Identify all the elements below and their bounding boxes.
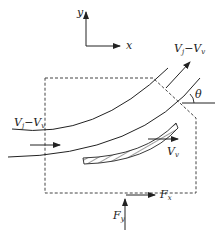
x-axis-label: x: [126, 39, 133, 52]
force-x-label: Fx: [159, 188, 172, 202]
jet-vane-diagram: y x Vj−Vv Vj−Vv θ Vv Fx Fy: [0, 0, 220, 239]
y-axis-label: y: [76, 6, 84, 19]
coordinate-axes: y x: [76, 6, 133, 52]
outlet-velocity-label: Vj−Vv: [174, 42, 205, 56]
outlet-flow-arrow: [166, 62, 190, 88]
angle-theta-label: θ: [195, 88, 202, 101]
inlet-velocity-label: Vj−Vv: [14, 116, 45, 130]
angle-arc: [190, 94, 194, 103]
control-volume-boundary: [45, 78, 196, 193]
vane-velocity-label: Vv: [167, 145, 179, 159]
curved-vane: [83, 123, 178, 164]
force-y-label: Fy: [112, 209, 126, 223]
